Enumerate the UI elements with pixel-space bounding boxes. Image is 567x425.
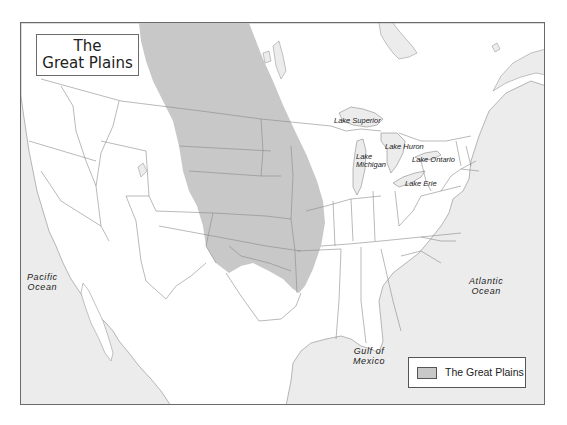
- label-lake-superior: Lake Superior: [334, 117, 381, 125]
- label-pacific-line-1: Pacific: [27, 272, 58, 282]
- map-canvas: [21, 23, 545, 405]
- map-legend: The Great Plains: [408, 357, 526, 388]
- map-title-line-2: Great Plains: [37, 55, 138, 72]
- label-lake-michigan: Lake Michigan: [356, 153, 386, 169]
- label-lake-erie: Lake Erie: [405, 180, 437, 188]
- label-gulf-of-mexico: Gulf of Mexico: [353, 346, 385, 366]
- label-lake-huron: Lake Huron: [385, 143, 424, 151]
- label-lake-ontario: Lake Ontario: [412, 156, 455, 164]
- map-title-line-1: The: [37, 38, 138, 55]
- label-atlantic-line-2: Ocean: [469, 286, 503, 296]
- label-atlantic-ocean: Atlantic Ocean: [469, 276, 503, 296]
- label-lake-michigan-line-2: Michigan: [356, 161, 386, 169]
- legend-label-great-plains: The Great Plains: [445, 366, 524, 378]
- label-gulf-line-1: Gulf of: [353, 346, 385, 356]
- legend-swatch-great-plains: [417, 367, 437, 379]
- map-frame: [20, 22, 545, 405]
- label-pacific-line-2: Ocean: [27, 282, 58, 292]
- label-atlantic-line-1: Atlantic: [469, 276, 503, 286]
- label-pacific-ocean: Pacific Ocean: [27, 272, 58, 292]
- map-title: The Great Plains: [36, 34, 139, 76]
- label-gulf-line-2: Mexico: [353, 356, 385, 366]
